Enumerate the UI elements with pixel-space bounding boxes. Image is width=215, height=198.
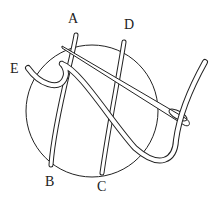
- diagram-drawing: [0, 0, 215, 198]
- stitch-diagram: A B C D E: [0, 0, 215, 198]
- label-d: D: [124, 18, 134, 32]
- label-e: E: [10, 62, 19, 76]
- label-a: A: [68, 12, 78, 26]
- label-c: C: [97, 180, 106, 194]
- label-b: B: [45, 175, 54, 189]
